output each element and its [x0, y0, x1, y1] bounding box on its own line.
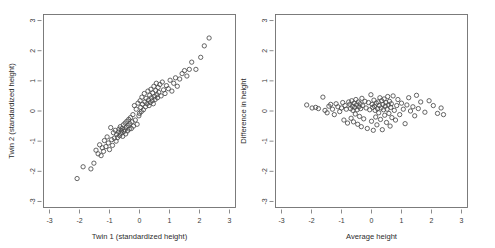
y-tick-label: 1	[29, 79, 36, 83]
data-point	[182, 68, 186, 72]
data-point	[332, 112, 336, 116]
data-point	[81, 165, 85, 169]
y-tick-label: 3	[261, 18, 268, 22]
data-point	[387, 111, 391, 115]
data-point	[371, 128, 375, 132]
left-x-ticks	[50, 210, 230, 214]
x-tick-label: -3	[278, 217, 284, 224]
right-xaxis-title: Average height	[346, 232, 398, 241]
data-point	[357, 114, 361, 118]
data-point	[172, 81, 176, 85]
data-point	[405, 103, 409, 107]
data-point	[408, 109, 412, 113]
data-point	[365, 126, 369, 130]
data-point	[342, 118, 346, 122]
data-point	[377, 111, 381, 115]
data-point	[345, 121, 349, 125]
y-tick-label: 3	[29, 18, 36, 22]
data-point	[321, 95, 325, 99]
data-point	[175, 84, 179, 88]
data-point	[163, 91, 167, 95]
data-point	[187, 67, 191, 71]
x-tick-label: -3	[46, 217, 52, 224]
y-tick-label: 2	[29, 49, 36, 53]
right-y-ticks	[270, 21, 274, 202]
y-tick-label: 1	[261, 79, 268, 83]
right-datapoints	[305, 93, 446, 133]
y-tick-label: -3	[261, 198, 268, 204]
data-point	[202, 44, 206, 48]
data-point	[441, 112, 445, 116]
x-tick-label: 1	[168, 217, 172, 224]
left-yticklabels: -3-2-10123	[29, 18, 36, 204]
data-point	[384, 120, 388, 124]
right-xticklabels: -3-2-10123	[278, 217, 463, 224]
left-datapoints	[75, 36, 211, 181]
data-point	[380, 128, 384, 132]
x-tick-label: 3	[228, 217, 232, 224]
data-point	[393, 118, 397, 122]
data-point	[419, 100, 423, 104]
left-xaxis-title: Twin 1 (standardized height)	[92, 232, 188, 241]
data-point	[403, 122, 407, 126]
data-point	[369, 93, 373, 97]
right-x-ticks	[282, 210, 462, 214]
data-point	[439, 106, 443, 110]
data-point	[170, 89, 174, 93]
data-point	[413, 114, 417, 118]
data-point	[391, 94, 395, 98]
x-tick-label: -2	[308, 217, 314, 224]
data-point	[75, 176, 79, 180]
data-point	[305, 103, 309, 107]
data-point	[190, 60, 194, 64]
data-point	[362, 117, 366, 121]
data-point	[207, 36, 211, 40]
data-point	[378, 117, 382, 121]
data-point	[411, 105, 415, 109]
data-point	[407, 96, 411, 100]
data-point	[134, 107, 138, 111]
x-tick-label: 2	[198, 217, 202, 224]
data-point	[351, 120, 355, 124]
data-point	[168, 78, 172, 82]
left-y-ticks	[38, 21, 42, 202]
data-point	[423, 110, 427, 114]
data-point	[194, 67, 198, 71]
x-tick-label: 2	[430, 217, 434, 224]
data-point	[359, 125, 363, 129]
data-point	[109, 125, 113, 129]
data-point	[92, 161, 96, 165]
data-point	[185, 74, 189, 78]
data-point	[395, 103, 399, 107]
data-point	[374, 115, 378, 119]
data-point	[330, 107, 334, 111]
x-tick-label: 0	[370, 217, 374, 224]
data-point	[178, 77, 182, 81]
data-point	[431, 103, 435, 107]
data-point	[435, 111, 439, 115]
left-xticklabels: -3-2-10123	[46, 217, 231, 224]
data-point	[199, 55, 203, 59]
data-point	[107, 147, 111, 151]
x-tick-label: 0	[138, 217, 142, 224]
data-point	[416, 106, 420, 110]
data-point	[414, 93, 418, 97]
x-tick-label: 1	[400, 217, 404, 224]
y-tick-label: -1	[261, 138, 268, 144]
data-point	[375, 123, 379, 127]
data-point	[383, 113, 387, 117]
y-tick-label: -1	[29, 138, 36, 144]
data-point	[401, 107, 405, 111]
y-tick-label: 2	[261, 49, 268, 53]
data-point	[353, 112, 357, 116]
data-point	[173, 76, 177, 80]
data-point	[131, 112, 135, 116]
x-tick-label: 3	[460, 217, 464, 224]
x-tick-label: -1	[106, 217, 112, 224]
x-tick-label: -2	[76, 217, 82, 224]
data-point	[135, 122, 139, 126]
twin-height-scatter-figure: -3-2-10123 -3-2-10123 Twin 1 (standardiz…	[0, 0, 495, 248]
y-tick-label: 0	[261, 109, 268, 113]
data-point	[399, 101, 403, 105]
data-point	[110, 143, 114, 147]
